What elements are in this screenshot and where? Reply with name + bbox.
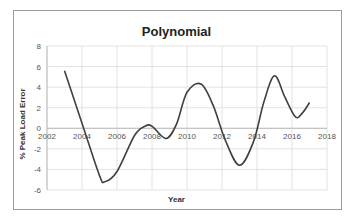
x-tick-label: 2016: [283, 132, 301, 141]
x-tick-label: 2004: [73, 132, 91, 141]
x-tick-label: 2014: [248, 132, 266, 141]
y-tick-label: -6: [34, 186, 42, 195]
x-tick-label: 2002: [38, 132, 56, 141]
y-tick-label: -4: [34, 165, 42, 174]
y-tick-label: 2: [37, 104, 42, 113]
x-tick-label: 2006: [108, 132, 126, 141]
y-tick-label: 8: [37, 42, 42, 51]
x-tick-label: 2018: [318, 132, 336, 141]
y-tick-label: -2: [34, 145, 42, 154]
plot-area: 86420-2-4-620022004200620082010201220142…: [0, 0, 353, 219]
x-tick-label: 2010: [178, 132, 196, 141]
y-tick-label: 4: [37, 83, 42, 92]
y-tick-label: 6: [37, 63, 42, 72]
